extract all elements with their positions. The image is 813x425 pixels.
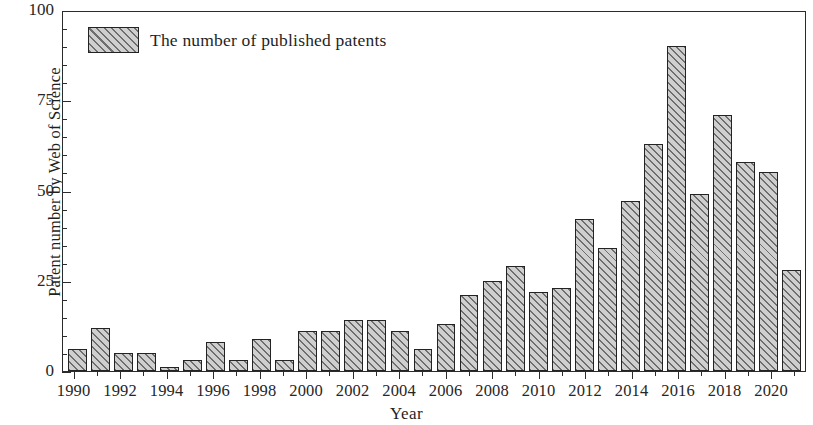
y-tick-20: [62, 300, 67, 301]
bar-2020[interactable]: [759, 172, 778, 371]
bar-slot: [780, 12, 803, 371]
bar-1991[interactable]: [91, 328, 110, 371]
x-tick-1992: [120, 372, 121, 379]
y-tick-label-25: 25: [2, 271, 54, 291]
x-tick-2011: [562, 372, 563, 376]
bar-2019[interactable]: [736, 162, 755, 371]
bar-slot: [342, 12, 365, 371]
x-tick-2003: [376, 372, 377, 376]
bar-2012[interactable]: [575, 219, 594, 371]
bar-1998[interactable]: [252, 339, 271, 371]
bar-slot: [319, 12, 342, 371]
y-tick-0: [62, 372, 71, 373]
legend: The number of published patents: [88, 27, 387, 53]
y-tick-25: [62, 282, 71, 283]
y-tick-label-0: 0: [2, 361, 54, 381]
y-tick-60: [62, 155, 67, 156]
figure-canvas: Patent number by Web of Science 02550751…: [0, 0, 813, 425]
bar-2018[interactable]: [713, 115, 732, 371]
legend-label-patents: The number of published patents: [150, 30, 387, 51]
x-tick-2009: [515, 372, 516, 376]
bar-slot: [619, 12, 642, 371]
y-tick-30: [62, 264, 67, 265]
bar-1995[interactable]: [183, 360, 202, 371]
bar-2002[interactable]: [344, 320, 363, 371]
bar-2009[interactable]: [506, 266, 525, 371]
bar-1992[interactable]: [114, 353, 133, 371]
bar-slot: [296, 12, 319, 371]
bar-2007[interactable]: [460, 295, 479, 371]
y-tick-65: [62, 137, 67, 138]
bar-slot: [688, 12, 711, 371]
x-tick-2019: [748, 372, 749, 376]
x-tick-2001: [329, 372, 330, 376]
x-tick-label-2020: 2020: [741, 381, 801, 401]
bar-slot: [596, 12, 619, 371]
bar-slot: [388, 12, 411, 371]
bar-1996[interactable]: [206, 342, 225, 371]
y-tick-label-100: 100: [2, 0, 54, 20]
bar-2003[interactable]: [367, 320, 386, 371]
y-tick-90: [62, 47, 67, 48]
bar-2021[interactable]: [782, 270, 801, 371]
bar-2017[interactable]: [690, 194, 709, 371]
bar-2010[interactable]: [529, 292, 548, 371]
x-tick-1993: [143, 372, 144, 376]
x-tick-2012: [585, 372, 586, 379]
bar-slot: [89, 12, 112, 371]
y-tick-40: [62, 228, 67, 229]
y-tick-85: [62, 65, 67, 66]
bar-2016[interactable]: [667, 46, 686, 371]
bar-slot: [527, 12, 550, 371]
bar-slot: [112, 12, 135, 371]
x-tick-1998: [260, 372, 261, 379]
y-tick-35: [62, 246, 67, 247]
bar-2000[interactable]: [298, 331, 317, 371]
bar-2006[interactable]: [437, 324, 456, 371]
bar-slot: [711, 12, 734, 371]
y-tick-15: [62, 318, 67, 319]
bar-slot: [757, 12, 780, 371]
bar-1990[interactable]: [68, 349, 87, 371]
bar-2001[interactable]: [321, 331, 340, 371]
bar-slot: [250, 12, 273, 371]
bar-slot: [158, 12, 181, 371]
bar-slot: [435, 12, 458, 371]
bar-slot: [481, 12, 504, 371]
x-tick-2005: [422, 372, 423, 376]
plot-area: The number of published patents: [62, 11, 806, 372]
x-tick-2020: [771, 372, 772, 379]
bar-1999[interactable]: [275, 360, 294, 371]
bar-2004[interactable]: [391, 331, 410, 371]
x-tick-2004: [399, 372, 400, 379]
x-tick-1990: [74, 372, 75, 379]
bar-slot: [458, 12, 481, 371]
bar-slot: [411, 12, 434, 371]
bar-slot: [573, 12, 596, 371]
y-tick-75: [62, 101, 71, 102]
x-tick-1996: [213, 372, 214, 379]
y-tick-100: [62, 11, 71, 12]
x-tick-2014: [632, 372, 633, 379]
bar-slot: [550, 12, 573, 371]
x-tick-2006: [446, 372, 447, 379]
bar-2014[interactable]: [621, 201, 640, 371]
y-tick-10: [62, 336, 67, 337]
x-tick-2013: [608, 372, 609, 376]
bar-2011[interactable]: [552, 288, 571, 371]
bar-1994[interactable]: [160, 367, 179, 371]
y-tick-50: [62, 192, 71, 193]
bar-2015[interactable]: [644, 144, 663, 371]
y-tick-70: [62, 119, 67, 120]
y-tick-label-50: 50: [2, 181, 54, 201]
x-tick-1995: [190, 372, 191, 376]
bar-slot: [734, 12, 757, 371]
bar-2005[interactable]: [414, 349, 433, 371]
bar-1993[interactable]: [137, 353, 156, 371]
bar-slot: [227, 12, 250, 371]
bar-1997[interactable]: [229, 360, 248, 371]
x-tick-1991: [97, 372, 98, 376]
bar-2013[interactable]: [598, 248, 617, 371]
bar-2008[interactable]: [483, 281, 502, 371]
x-tick-2021: [794, 372, 795, 376]
